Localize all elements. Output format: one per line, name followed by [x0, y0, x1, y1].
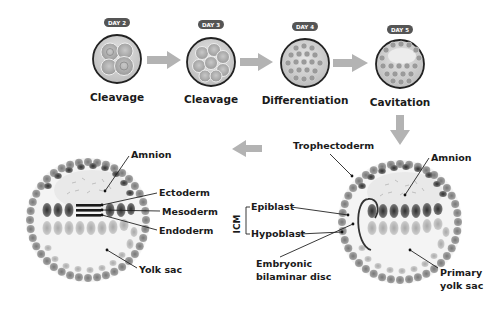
trophoblast-cell: [454, 218, 462, 226]
icm-bracket: [246, 207, 250, 234]
stage-day5: DAY 5 Cavitation: [370, 25, 431, 108]
trilaminar-embryo: [26, 158, 150, 282]
trophoblast-cell: [58, 268, 66, 276]
day-badge-text: DAY 2: [108, 20, 126, 26]
trophoblast-cell: [43, 257, 51, 265]
label-hypoblast: Hypoblast: [251, 228, 306, 239]
trophoblast-cell: [37, 250, 45, 258]
stage-label: Differentiation: [262, 94, 349, 106]
trophoblast-cell: [118, 263, 126, 271]
stage-label: Cleavage: [90, 91, 144, 103]
endoderm-layer: [76, 214, 101, 217]
trophoblast-cell: [339, 209, 347, 217]
trophoblast-cell: [341, 236, 349, 244]
trophoblast-cell: [448, 244, 456, 252]
trophoblast-cell: [93, 273, 101, 281]
bilaminar-embryo: [338, 160, 462, 284]
trophoblast-cell: [387, 275, 395, 283]
day-badge-text: DAY 5: [391, 27, 409, 33]
trophoblast-cell: [29, 198, 37, 206]
trophoblast-cell: [29, 234, 37, 242]
mesoderm-layer: [76, 209, 101, 212]
trophoblast-cell: [136, 242, 144, 250]
label-yolk-sac: Yolk sac: [138, 264, 182, 275]
trophoblast-cell: [142, 216, 150, 224]
trophoblast-cell: [32, 190, 40, 198]
trophoblast-cell: [451, 236, 459, 244]
trophoblast-cell: [102, 271, 110, 279]
trophoblast-cell: [66, 271, 74, 279]
trophoblast-cell: [430, 265, 438, 273]
label-endoderm: Endoderm: [159, 225, 214, 236]
trophoblast-cell: [341, 200, 349, 208]
trophoblast-cell: [50, 263, 58, 271]
stage-label: Cleavage: [184, 93, 238, 105]
trophoblast-cell: [139, 234, 147, 242]
trophoblast-cell: [349, 252, 357, 260]
trophoblast-cell: [338, 218, 346, 226]
arrow-left-icon: [232, 140, 262, 157]
label-bilaminar-disc: bilaminar disc: [256, 271, 331, 282]
stage-day3: DAY 3 Cleavage: [184, 20, 238, 105]
trophoblast-cell: [396, 276, 404, 284]
label-epiblast: Epiblast: [251, 201, 295, 212]
trophoblast-cell: [37, 182, 45, 190]
trophoblast-cell: [344, 192, 352, 200]
label-primary: Primary: [440, 267, 483, 278]
arrow-right-icon: [240, 53, 273, 71]
trophoblast-cell: [110, 164, 118, 172]
trophoblast-cell: [84, 274, 92, 282]
day-badge-text: DAY 3: [202, 22, 220, 28]
trophoblast-cell: [422, 270, 430, 278]
trophoblast-cell: [27, 225, 35, 233]
stage-label: Cavitation: [370, 96, 431, 108]
trophoblast-cell: [362, 265, 370, 273]
trophoblast-cell: [437, 259, 445, 267]
label-trophectoderm: Trophectoderm: [293, 140, 374, 151]
trophoblast-cell: [414, 273, 422, 281]
label-icm: ICM: [232, 215, 242, 234]
trophoblast-cell: [451, 200, 459, 208]
arrow-right-icon: [147, 51, 181, 69]
trophoblast-cell: [355, 259, 363, 267]
label-yolk-sac: yolk sac: [440, 280, 483, 291]
ectoderm-layer: [76, 204, 101, 207]
label-amnion: Amnion: [131, 149, 172, 160]
trophoblast-cell: [370, 166, 378, 174]
arrow-right-icon: [333, 54, 368, 72]
trophoblast-cell: [58, 164, 66, 172]
trophoblast-cell: [370, 270, 378, 278]
label-amnion: Amnion: [431, 152, 472, 163]
stage-day2: DAY 2 Cleavage: [90, 18, 144, 103]
trophoblast-cell: [110, 268, 118, 276]
trophoblast-cell: [131, 182, 139, 190]
trophoblast-cell: [453, 227, 461, 235]
trophoblast-cell: [453, 209, 461, 217]
trophoblast-cell: [27, 207, 35, 215]
trophoblast-cell: [378, 273, 386, 281]
trophoblast-cell: [32, 242, 40, 250]
arrow-down-icon: [390, 115, 410, 145]
day-badge-text: DAY 4: [296, 24, 314, 30]
trophoblast-cell: [443, 252, 451, 260]
trophoblast-cell: [349, 184, 357, 192]
label-mesoderm: Mesoderm: [162, 206, 218, 217]
trophoblast-cell: [75, 273, 83, 281]
trophoblast-cell: [131, 250, 139, 258]
label-embryonic-disc: Embryonic: [256, 258, 312, 269]
trophoblast-cell: [26, 216, 34, 224]
trophoblast-cell: [43, 175, 51, 183]
trophoblast-cell: [344, 244, 352, 252]
trophoblast-cell: [405, 275, 413, 283]
trophoblast-cell: [448, 192, 456, 200]
trophoblast-cell: [139, 198, 147, 206]
embryo-development-diagram: DAY 2 Cleavage DAY 3 Cleavage DAY 4: [0, 0, 504, 315]
trophoblast-cell: [443, 184, 451, 192]
label-ectoderm: Ectoderm: [159, 187, 210, 198]
